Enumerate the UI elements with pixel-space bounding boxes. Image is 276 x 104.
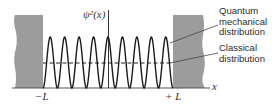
x-axis-label: x xyxy=(212,81,217,92)
left-wall xyxy=(14,15,43,88)
quantum-annotation-line-3: distribution xyxy=(219,27,267,38)
y-axis-label: ψ²(x) xyxy=(83,9,105,20)
left-bound-label: −L xyxy=(35,91,49,102)
quantum-annotation-line-1: Quantum xyxy=(219,6,267,17)
quantum-annotation: Quantum mechanical distribution xyxy=(219,6,267,38)
right-wall xyxy=(173,15,205,88)
classical-annotation-line-1: Classical xyxy=(219,43,265,54)
classical-annotation: Classical distribution xyxy=(219,43,265,64)
classical-annotation-line-2: distribution xyxy=(219,54,265,65)
right-bound-label: + L xyxy=(165,91,181,102)
